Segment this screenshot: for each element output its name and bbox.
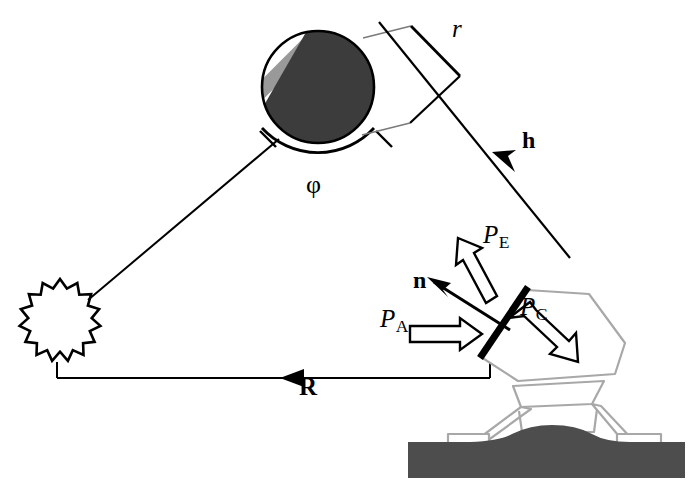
label-pe-base: P bbox=[483, 221, 498, 248]
label-pa-sub: A bbox=[396, 316, 409, 336]
label-pe: PE bbox=[483, 222, 509, 251]
figure-canvas: r h φ R n PE PA PC bbox=[0, 0, 696, 501]
label-pa: PA bbox=[380, 306, 408, 335]
pa-arrow bbox=[410, 318, 482, 350]
label-r: r bbox=[452, 16, 462, 41]
h-vector-line bbox=[379, 22, 570, 258]
label-pc: PC bbox=[520, 294, 547, 323]
R-vector-line bbox=[57, 362, 490, 387]
r-dimension-bracket bbox=[362, 26, 460, 135]
n-normal-vector bbox=[427, 277, 510, 330]
label-R: R bbox=[299, 374, 317, 399]
label-pa-base: P bbox=[380, 305, 395, 332]
label-pc-sub: C bbox=[536, 304, 548, 324]
sun-starburst bbox=[20, 279, 101, 361]
label-n: n bbox=[413, 268, 426, 292]
label-pe-sub: E bbox=[499, 232, 510, 252]
spacecraft-body-hexagon bbox=[481, 290, 625, 407]
label-pc-base: P bbox=[520, 293, 535, 320]
label-h: h bbox=[522, 128, 535, 152]
diagram-svg bbox=[0, 0, 696, 501]
label-phi: φ bbox=[306, 172, 321, 198]
sun-to-planet-line bbox=[88, 139, 279, 300]
